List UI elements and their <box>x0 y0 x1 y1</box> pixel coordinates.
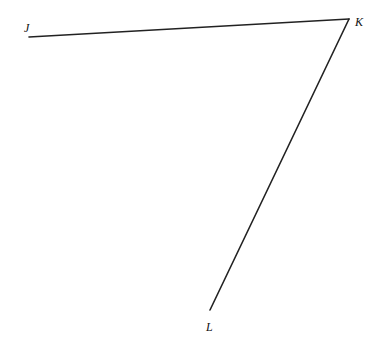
point-label-j: J <box>24 21 30 35</box>
angle-jkl-diagram: J K L <box>0 0 379 353</box>
segment-kl <box>210 19 349 310</box>
point-label-k: K <box>354 15 364 29</box>
segment-kj <box>29 19 349 37</box>
point-label-l: L <box>205 320 213 334</box>
